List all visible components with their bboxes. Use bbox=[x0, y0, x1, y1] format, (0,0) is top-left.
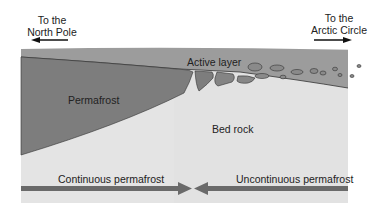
north-pole-label-line1: To the bbox=[22, 14, 82, 26]
north-pole-label-line2: North Pole bbox=[22, 26, 82, 38]
uncontinuous-permafrost-label: Uncontinuous permafrost bbox=[236, 173, 353, 185]
north-pole-label: To the North Pole bbox=[22, 14, 82, 38]
arctic-circle-label-line2: Arctic Circle bbox=[306, 24, 372, 36]
uncontinuous-zone-bar bbox=[205, 186, 348, 191]
continuous-zone-bar bbox=[21, 186, 181, 191]
arctic-circle-label-line1: To the bbox=[306, 12, 372, 24]
active-layer-label: Active layer bbox=[187, 56, 241, 68]
arctic-circle-label: To the Arctic Circle bbox=[306, 12, 372, 36]
bed-rock-label: Bed rock bbox=[212, 123, 253, 135]
permafrost-label: Permafrost bbox=[68, 94, 119, 106]
arctic-circle-arrow-icon bbox=[314, 37, 352, 43]
continuous-permafrost-label: Continuous permafrost bbox=[58, 173, 164, 185]
